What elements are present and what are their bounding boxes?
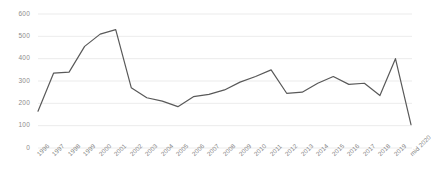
y-tick-label: 200 (4, 100, 30, 107)
data-series-line (38, 30, 411, 125)
gridlines (38, 14, 412, 148)
y-tick-label: 400 (4, 55, 30, 62)
y-tick-label: 600 (4, 11, 30, 18)
y-tick-label: 300 (4, 78, 30, 85)
y-tick-label: 100 (4, 122, 30, 129)
y-tick-label: 500 (4, 33, 30, 40)
y-tick-label: 0 (4, 145, 30, 152)
